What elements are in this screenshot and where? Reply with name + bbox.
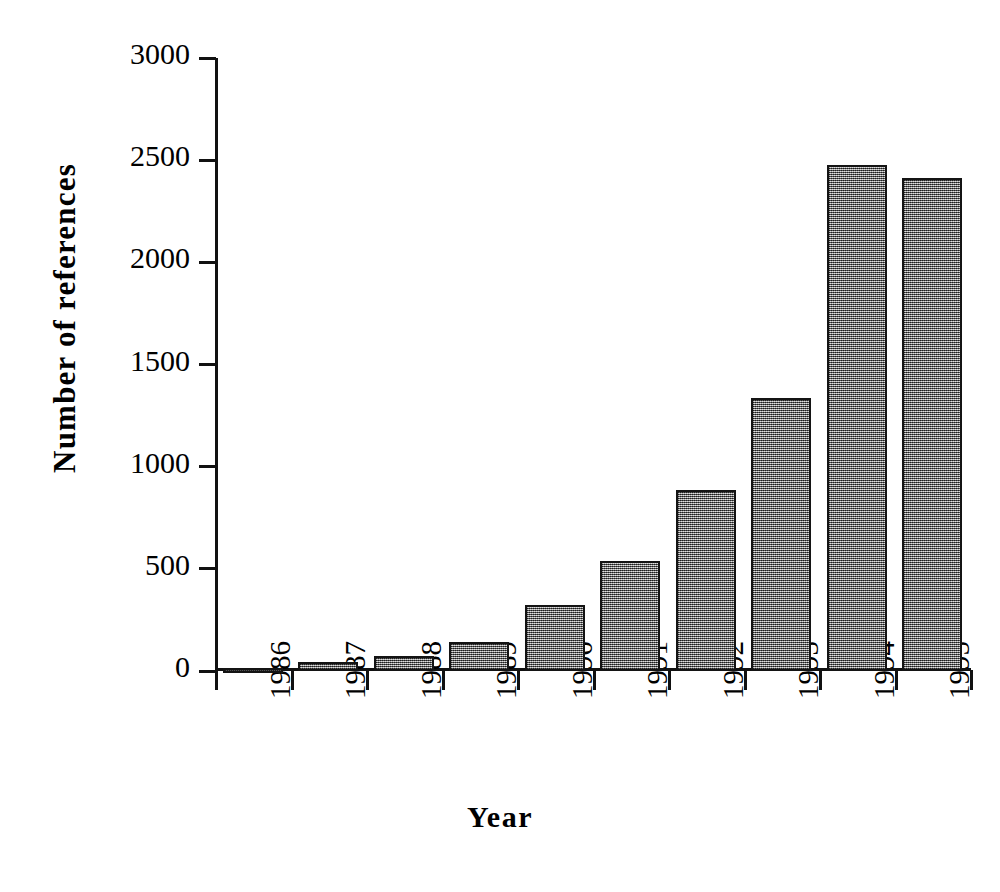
bar [298,662,358,671]
bar [676,490,736,671]
bar [525,605,585,671]
bar [751,398,811,671]
bar [223,668,283,673]
bar [374,656,434,671]
y-axis-tick [199,57,216,60]
bar [600,561,660,671]
x-axis-title: Year [0,800,1000,834]
bar [827,165,887,671]
y-axis-tick-label: 0 [30,650,190,684]
y-axis-tick [199,670,216,673]
y-axis-tick [199,363,216,366]
plot-area: 050010001500200025003000 198619871988198… [215,58,970,671]
figure-caption [60,884,950,892]
y-axis-tick-label: 2500 [30,139,190,173]
y-axis-tick [199,567,216,570]
y-axis-tick [199,159,216,162]
bar [902,178,962,671]
y-axis-tick [199,261,216,264]
figure-bar-chart-references-per-year: Number of references 0500100015002000250… [0,0,1000,892]
y-axis-tick-label: 2000 [30,241,190,275]
y-axis-tick-label: 1000 [30,446,190,480]
bar [449,642,509,671]
y-axis-tick [199,465,216,468]
y-axis-tick-label: 500 [30,548,190,582]
y-axis-title: Number of references [47,148,83,488]
x-axis-tick [215,670,218,690]
y-axis-tick-label: 1500 [30,344,190,378]
y-axis-tick-label: 3000 [30,37,190,71]
